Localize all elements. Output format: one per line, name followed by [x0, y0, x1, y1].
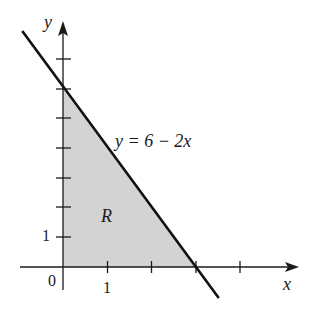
y-tick-label-1: 1 — [42, 228, 50, 244]
region-label: R — [101, 207, 112, 225]
y-axis-label: y — [44, 13, 52, 31]
origin-label: 0 — [48, 273, 56, 289]
x-axis-label: x — [283, 275, 291, 293]
x-tick-label-1: 1 — [103, 280, 111, 296]
region-diagram — [0, 0, 310, 321]
curve-equation-label: y = 6 − 2x — [115, 132, 191, 150]
